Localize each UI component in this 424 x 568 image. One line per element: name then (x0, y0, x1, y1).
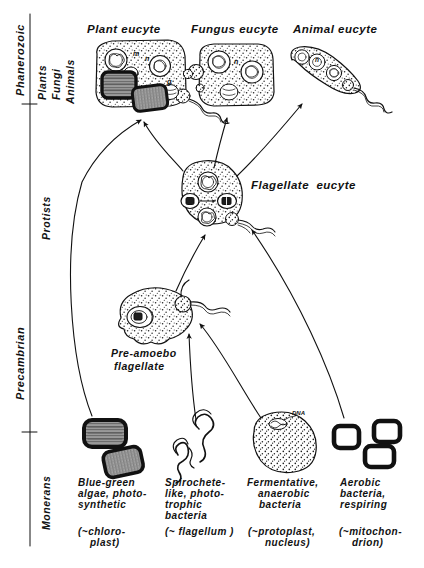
caption-fermentative-line1: Fermentative, (247, 477, 319, 489)
label-preamoebo-line2: flagellate (114, 360, 165, 372)
organelle-mark-animal-n: n (315, 56, 319, 63)
label-preamoebo-line1: Pre-amoebo (111, 347, 177, 359)
axis-kingdom-fungi: Fungi (50, 68, 62, 100)
organelle-mark-plant-g: g (167, 77, 172, 86)
axis-kingdom-animals: Animals (64, 59, 76, 104)
pre-amoebo-flagellate-cell (119, 280, 230, 344)
arrow-fermentative-to-preamoebo (200, 324, 261, 418)
spirochete-bacteria-shape (173, 410, 213, 483)
arrow-flagellate-to-animal (237, 104, 302, 176)
axis-era-precambrian: Precambrian (14, 327, 26, 400)
caption-algae-paren2: plast) (90, 537, 120, 549)
blue-green-algae-shape (84, 420, 144, 479)
evolution-arrows (71, 104, 344, 420)
organelle-mark-plant-n: n (145, 55, 150, 62)
caption-fermentative-paren2: nucleus) (265, 537, 310, 549)
axis-era-phanerozoic: Phanerozoic (14, 24, 26, 96)
label-flagellate-eucyte: Flagellate eucyte (251, 179, 356, 191)
arrow-flagellate-to-plant (144, 122, 183, 171)
arrow-spirochete-to-preamoebo (189, 334, 196, 420)
caption-algae-line2: algae, photo- (78, 488, 147, 500)
arrow-preamoebo-to-flagellate (176, 235, 205, 291)
aerobic-bacteria-shape (334, 421, 400, 467)
organelle-mark-fungus-n: n (234, 58, 239, 65)
label-fungus-eucyte: Fungus eucyte (191, 23, 279, 35)
arrow-aerobic-to-flagellate (252, 230, 344, 418)
fermentative-bacteria-shape (253, 412, 316, 473)
label-animal-eucyte: Animal eucyte (293, 23, 377, 35)
caption-aerobic-paren1: (~mitochon- (339, 526, 402, 538)
label-dna-annotation: DNA (292, 410, 305, 416)
label-plant-eucyte: Plant eucyte (87, 23, 161, 35)
caption-algae-line3: synthetic (78, 499, 126, 511)
figure-canvas: Phanerozoic Precambrian Plants Fungi Ani… (0, 0, 424, 568)
caption-spirochete-line2: like, photo- (165, 488, 224, 500)
axis-kingdom-monerans: Monerans (40, 476, 52, 530)
caption-fermentative-line2: anaerobic (258, 488, 310, 500)
caption-aerobic-paren2: drion) (352, 537, 383, 549)
caption-aerobic-line2: bacteria, (340, 488, 386, 500)
flagellate-eucyte-cell (181, 161, 275, 236)
axis-kingdom-plants: Plants (36, 65, 48, 100)
caption-fermentative-line3: bacteria (259, 499, 301, 511)
caption-fermentative-paren1: (~protoplast, (248, 526, 315, 538)
caption-algae-line1: Blue-green (78, 477, 135, 489)
caption-spirochete-line1: Spirochete- (165, 477, 226, 489)
caption-aerobic-line3: respiring (340, 499, 387, 511)
caption-spirochete-paren1: (~ flagellum ) (165, 526, 234, 538)
arrow-flagellate-to-fungus (214, 118, 227, 168)
caption-spirochete-line3: trophic (165, 499, 202, 511)
caption-spirochete-line4: bacteria (165, 510, 207, 522)
organelle-mark-plant-m: m (133, 50, 140, 57)
fungus-eucyte-cell (183, 44, 274, 106)
animal-eucyte-cell (291, 47, 392, 113)
caption-aerobic-line1: Aerobic (340, 477, 381, 489)
caption-algae-paren1: (~chloro- (78, 526, 126, 538)
axis-kingdom-protists: Protists (40, 196, 52, 240)
